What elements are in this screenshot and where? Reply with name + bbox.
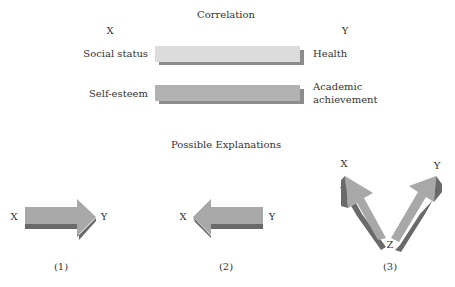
- row-2-y-label-line1: Academic: [313, 81, 362, 93]
- row-2-y-label-line2: achievement: [313, 94, 378, 106]
- y-header: Y: [342, 25, 349, 37]
- exp1-x-label: X: [10, 211, 17, 223]
- arrow-up-right-icon: [391, 176, 442, 252]
- row-1-y-label: Health: [313, 48, 347, 60]
- arrow-right-icon: [25, 199, 96, 240]
- correlation-bar-1: [155, 46, 304, 65]
- arrow-up-left-icon: [340, 176, 386, 250]
- exp1-number: (1): [54, 261, 68, 273]
- arrow-left-icon: [193, 199, 263, 238]
- exp3-z-label: Z: [387, 239, 394, 251]
- exp3-y-label: Y: [434, 160, 441, 172]
- exp3-number: (3): [383, 261, 397, 273]
- exp2-number: (2): [219, 261, 233, 273]
- row-1-x-label: Social status: [83, 48, 148, 60]
- exp2-x-label: X: [179, 211, 186, 223]
- x-header: X: [106, 25, 113, 37]
- correlation-bar-2: [155, 85, 304, 104]
- correlation-title: Correlation: [197, 9, 255, 21]
- exp2-y-label: Y: [269, 211, 276, 223]
- explanations-title: Possible Explanations: [171, 139, 281, 151]
- row-2-x-label: Self-esteem: [89, 88, 148, 100]
- exp1-y-label: Y: [101, 211, 108, 223]
- exp3-x-label: X: [340, 158, 347, 170]
